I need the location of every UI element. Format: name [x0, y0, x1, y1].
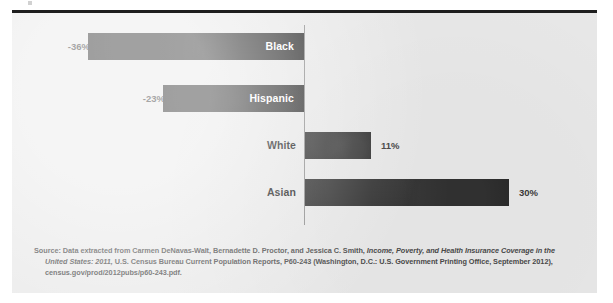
source-line-1-text: Source: Data extracted from Carmen DeNav… — [34, 246, 367, 255]
source-line-1: Source: Data extracted from Carmen DeNav… — [34, 245, 582, 256]
bar-value-hispanic: -23% — [107, 85, 165, 112]
bar-white[interactable] — [305, 132, 371, 159]
source-line-2: United States: 2011, U.S. Census Bureau … — [34, 256, 582, 267]
bar-row-asian: Asian 30% — [12, 179, 597, 206]
plot-area: -36% Black -23% Hispanic White 11% Asian… — [12, 13, 597, 235]
bar-label-white: White — [212, 132, 296, 159]
bar-row-black: -36% Black — [12, 33, 597, 60]
source-line-1-italic: Income, Poverty, and Health Insurance Co… — [367, 246, 555, 255]
figure-container: -36% Black -23% Hispanic White 11% Asian… — [0, 0, 613, 303]
bar-row-white: White 11% — [12, 132, 597, 159]
chart-panel: -36% Black -23% Hispanic White 11% Asian… — [12, 10, 597, 293]
source-line-2-italic: United States: 2011, — [45, 257, 113, 266]
bar-value-black: -36% — [32, 33, 90, 60]
source-note: Source: Data extracted from Carmen DeNav… — [34, 245, 582, 279]
bar-asian[interactable] — [305, 179, 509, 206]
bar-label-asian: Asian — [212, 179, 296, 206]
bar-label-black: Black — [88, 33, 294, 60]
bar-row-hispanic: -23% Hispanic — [12, 85, 597, 112]
source-line-2-text: U.S. Census Bureau Current Population Re… — [113, 257, 553, 266]
source-line-3: census.gov/prod/2012pubs/p60-243.pdf. — [34, 267, 582, 278]
bar-value-white: 11% — [381, 132, 431, 159]
scan-artifact-speck — [28, 1, 32, 5]
bar-label-hispanic: Hispanic — [163, 85, 294, 112]
bar-value-asian: 30% — [519, 179, 569, 206]
